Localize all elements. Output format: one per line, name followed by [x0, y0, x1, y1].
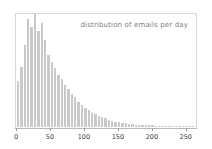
x-tick-label: 0 [14, 133, 18, 141]
chart-title: distribution of emails per day [81, 21, 189, 29]
histogram-bars [17, 15, 195, 127]
x-tick-mark [84, 128, 85, 131]
x-tick-label: 150 [112, 133, 124, 141]
x-tick-mark [118, 128, 119, 131]
x-tick-mark [186, 128, 187, 131]
x-tick-mark [152, 128, 153, 131]
x-tick-mark [50, 128, 51, 131]
histogram-chart: distribution of emails per day 050100150… [0, 0, 212, 149]
x-tick-label: 250 [180, 133, 192, 141]
x-tick-label: 200 [146, 133, 158, 141]
plot-area: distribution of emails per day [15, 13, 197, 129]
x-axis-line [15, 128, 197, 129]
x-tick-label: 50 [46, 133, 54, 141]
x-tick-label: 100 [78, 133, 90, 141]
histogram-bar [192, 126, 195, 127]
x-tick-mark [16, 128, 17, 131]
